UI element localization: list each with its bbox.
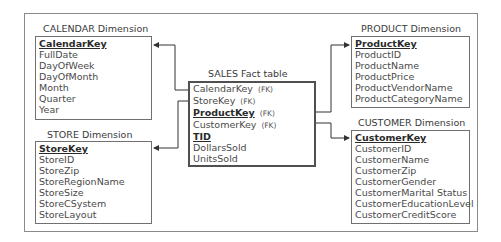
connector-customer xyxy=(316,123,349,138)
connector-store xyxy=(154,101,188,148)
relationship-connectors xyxy=(0,0,501,242)
connector-calendar xyxy=(154,45,188,90)
connector-product xyxy=(316,45,349,112)
